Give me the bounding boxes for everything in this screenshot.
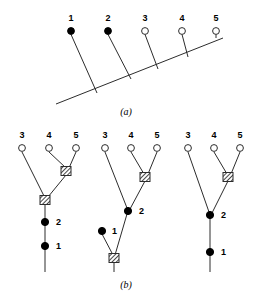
tree-left-hypothetical-ancestor-node-1: [40, 196, 50, 205]
tree-left-tip-label-4: 4: [46, 130, 51, 140]
tree-middle-ancestral-node-1: [98, 227, 105, 234]
tree-right-tip-3-open: [185, 145, 192, 152]
panel-a-backbone-line: [56, 38, 223, 104]
tree-right-tip-label-4: 4: [211, 130, 216, 140]
tree-middle-edge-5: [102, 234, 113, 255]
panel-a-branch-2: [108, 34, 131, 79]
tree-middle-hypothetical-ancestor-node-3: [109, 254, 119, 263]
phylogeny-figure: 12345(a) 345213452134521(b): [0, 0, 253, 299]
panel-a-branch-3: [145, 34, 158, 69]
tree-left-node-label-1: 1: [56, 241, 61, 251]
tree-left-node-label-2: 2: [56, 217, 61, 227]
panel-a-caption: (a): [120, 106, 132, 118]
tree-right-edge-1: [214, 152, 227, 174]
tree-left-tip-4-open: [46, 145, 53, 152]
tree-left-tip-label-5: 5: [73, 130, 78, 140]
tree-middle-tip-label-4: 4: [128, 130, 133, 140]
panel-b-caption: (b): [120, 279, 132, 291]
tree-right-node-label-2: 2: [221, 210, 226, 220]
panel-a-tip-label-2: 2: [105, 13, 110, 23]
panel-b: 345213452134521(b): [19, 130, 244, 291]
tree-middle-node-label-1: 1: [112, 226, 117, 236]
tree-right-edge-3: [212, 181, 228, 213]
tree-right-tip-label-3: 3: [185, 130, 190, 140]
tree-left-edge-0: [22, 152, 45, 198]
tree-middle-ancestral-node-2: [124, 207, 131, 214]
tree-left-tip-label-3: 3: [19, 130, 24, 140]
tree-middle-tip-label-3: 3: [102, 130, 107, 140]
tree-left-ancestral-node-1: [41, 242, 48, 249]
tree-middle-tip-4-open: [128, 145, 135, 152]
tree-right-tip-label-5: 5: [237, 130, 242, 140]
tree-right-edge-0: [188, 152, 209, 212]
figure-root: 12345(a) 345213452134521(b): [0, 0, 253, 299]
panel-a-tip-4-open: [179, 28, 186, 35]
panel-a-tip-2-filled: [105, 28, 112, 35]
tree-middle-tip-label-5: 5: [154, 130, 159, 140]
tree-right-tip-4-open: [211, 145, 218, 152]
panel-a: 12345(a): [56, 13, 223, 118]
tree-middle-edge-3: [130, 181, 145, 209]
panel-a-tip-label-3: 3: [142, 13, 147, 23]
tree-right-ancestral-node-2: [206, 211, 213, 218]
tree-middle-tip-3-open: [102, 145, 109, 152]
tree-left-tip-5-open: [73, 145, 80, 152]
panel-a-branch-1: [71, 34, 97, 93]
panel-a-tip-label-4: 4: [179, 13, 184, 23]
panel-a-tip-1-filled: [68, 28, 75, 35]
tree-left-edge-1: [49, 152, 66, 168]
tree-right-ancestral-node-1: [206, 248, 213, 255]
tree-middle-node-label-2: 2: [139, 206, 144, 216]
tree-middle-hypothetical-ancestor-node-0: [140, 173, 150, 182]
panel-a-tip-3-open: [142, 28, 149, 35]
tree-right-node-label-1: 1: [221, 247, 226, 257]
tree-left-tip-3-open: [19, 145, 26, 152]
tree-left-edge-2: [69, 152, 76, 168]
tree-middle-edge-0: [105, 152, 127, 208]
tree-left-ancestral-node-2: [41, 218, 48, 225]
tree-middle-edge-1: [131, 152, 144, 174]
tree-right-tip-5-open: [237, 145, 244, 152]
tree-left-edge-3: [48, 175, 66, 197]
tree-right-hypothetical-ancestor-node-0: [223, 173, 233, 182]
tree-middle-edge-2: [148, 152, 157, 174]
panel-a-tip-label-1: 1: [68, 13, 73, 23]
panel-a-tip-label-5: 5: [213, 13, 218, 23]
tree-middle-tip-5-open: [154, 145, 161, 152]
panel-a-tip-5-open: [213, 28, 220, 35]
tree-left-hypothetical-ancestor-node-0: [61, 167, 71, 176]
tree-right-edge-2: [231, 152, 240, 174]
